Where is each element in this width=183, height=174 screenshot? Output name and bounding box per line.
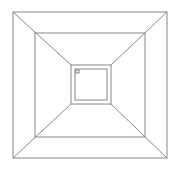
corner-marker	[76, 70, 79, 73]
diagonal-bottom-left	[13, 104, 71, 158]
diagonal-top-left	[13, 12, 71, 65]
innermost-square	[75, 69, 107, 100]
perspective-squares-diagram	[0, 0, 183, 174]
diagonal-bottom-right	[111, 104, 167, 158]
inner-square	[71, 65, 111, 104]
diagram-canvas	[0, 0, 183, 174]
diagonal-top-right	[111, 12, 167, 65]
